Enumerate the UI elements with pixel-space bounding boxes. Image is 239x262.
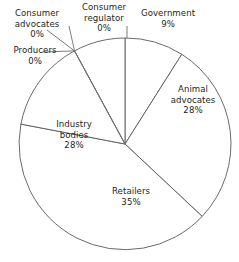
pie-label-retailers-line1: Retailers: [92, 186, 170, 197]
pie-label-government-value: 9%: [128, 19, 208, 30]
pie-label-government-line1: Government: [128, 8, 208, 19]
pie-label-animal-advocates-value: 28%: [152, 105, 234, 116]
pie-label-consumer-advocates: Consumer advocates 0%: [2, 8, 72, 40]
pie-label-animal-advocates: Animal advocates 28%: [152, 84, 234, 116]
pie-label-industry-bodies-line2: bodies: [33, 130, 115, 141]
pie-label-government: Government 9%: [128, 8, 208, 29]
pie-label-animal-advocates-line2: advocates: [152, 95, 234, 106]
pie-label-producers-value: 0%: [0, 56, 72, 67]
pie-label-consumer-advocates-line1: Consumer: [2, 8, 72, 19]
pie-label-retailers: Retailers 35%: [92, 186, 170, 207]
pie-label-retailers-value: 35%: [92, 197, 170, 208]
pie-label-consumer-advocates-line2: advocates: [2, 19, 72, 30]
pie-label-producers: Producers 0%: [0, 45, 72, 66]
pie-label-industry-bodies-value: 28%: [33, 140, 115, 151]
pie-chart: Consumer advocates 0% Consumer regulator…: [0, 0, 239, 262]
pie-label-industry-bodies-line1: Industry: [33, 119, 115, 130]
pie-label-animal-advocates-line1: Animal: [152, 84, 234, 95]
pie-label-industry-bodies: Industry bodies 28%: [33, 119, 115, 151]
pie-label-producers-line1: Producers: [0, 45, 72, 56]
pie-label-consumer-advocates-value: 0%: [2, 29, 72, 40]
